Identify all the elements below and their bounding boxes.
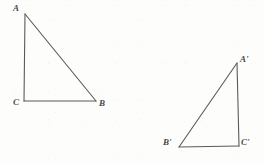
- segment-a-prime-c-prime: [237, 63, 239, 146]
- label-c-prime: C': [241, 138, 250, 147]
- geometry-figure: A B C A' B' C': [0, 0, 264, 163]
- segment-a-prime-b-prime: [179, 63, 237, 147]
- label-c: C: [13, 98, 19, 107]
- label-b-prime: B': [163, 138, 172, 147]
- label-a-prime: A': [240, 55, 249, 64]
- segment-ab: [25, 14, 96, 101]
- label-a: A: [13, 4, 19, 13]
- segment-b-prime-c-prime: [179, 146, 239, 147]
- triangle-abc: [24, 14, 96, 101]
- triangles-canvas: [0, 0, 264, 163]
- label-b: B: [99, 99, 105, 108]
- triangle-a-prime-b-prime-c-prime: [179, 63, 239, 147]
- segment-ac: [24, 14, 25, 101]
